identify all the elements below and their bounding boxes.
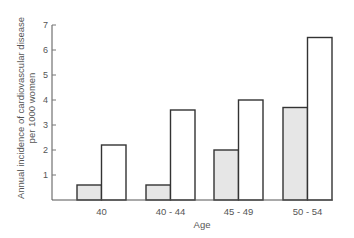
bar-open — [239, 100, 264, 200]
bar-group — [283, 38, 332, 201]
y-tick-label: 5 — [43, 70, 48, 80]
bar-group — [146, 110, 195, 200]
bar-shaded — [77, 185, 102, 200]
bar-open — [171, 110, 196, 200]
bars — [77, 38, 332, 201]
y-tick-label: 6 — [43, 45, 48, 55]
y-axis: 1234567 — [43, 20, 56, 200]
x-tick-label: 50 - 54 — [293, 206, 323, 217]
bar-shaded — [146, 185, 171, 200]
y-tick-label: 2 — [43, 145, 48, 155]
bar-shaded — [214, 150, 239, 200]
y-axis-title: Annual incidence of cardiovascular disea… — [15, 17, 37, 199]
bar-group — [214, 100, 263, 200]
bar-shaded — [283, 108, 308, 201]
y-tick-label: 1 — [43, 170, 48, 180]
bar-open — [308, 38, 333, 201]
y-tick-label: 3 — [43, 120, 48, 130]
y-axis-title-line: per 1000 women — [26, 73, 37, 144]
x-axis: 4040 - 4445 - 4950 - 54 — [52, 200, 333, 217]
x-tick-label: 45 - 49 — [224, 206, 254, 217]
bar-open — [102, 145, 127, 200]
y-tick-label: 4 — [43, 95, 48, 105]
x-axis-title: Age — [194, 219, 211, 230]
x-tick-label: 40 — [96, 206, 107, 217]
y-axis-title-line: Annual incidence of cardiovascular disea… — [15, 17, 26, 199]
y-tick-label: 7 — [43, 20, 48, 30]
bar-group — [77, 145, 126, 200]
x-tick-label: 40 - 44 — [156, 206, 186, 217]
bar-chart: Annual incidence of cardiovascular disea… — [0, 0, 354, 238]
